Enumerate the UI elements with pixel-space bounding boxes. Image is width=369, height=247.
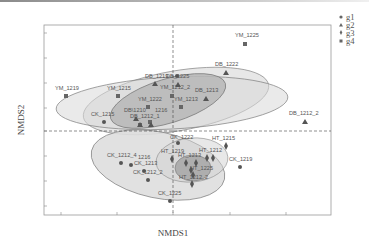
- point-label: CK_1213: [134, 160, 157, 166]
- point-label: CK_1225: [158, 190, 181, 196]
- circle-marker: [119, 161, 123, 165]
- point-label: CK_1219: [229, 156, 252, 162]
- point-label: YM_1222: [138, 96, 162, 102]
- point-label: DB_1212_1: [130, 113, 160, 119]
- point-label: YM_1219: [55, 85, 79, 91]
- point-label: DB_1213: [195, 87, 218, 93]
- point-label: YM_1215: [107, 85, 131, 91]
- point-label: HT_1212_2: [179, 174, 208, 180]
- circle-marker: [102, 120, 106, 124]
- point-label: CK_1212_4: [107, 152, 137, 158]
- point-label: DB_1212_2: [289, 110, 319, 116]
- point-label: DB_1225: [166, 73, 189, 79]
- point-label: YM_1213: [174, 96, 198, 102]
- x-axis-title: NMDS1: [158, 228, 189, 238]
- legend: g1 g2 g3 g4: [339, 12, 355, 46]
- point-label: CK_1212_2: [133, 169, 163, 175]
- circle-marker: [168, 199, 172, 203]
- point-label: YM_1225: [235, 32, 259, 38]
- point-label: CK_1215: [91, 111, 114, 117]
- legend-diamond-icon: [340, 30, 343, 35]
- point-label: HT_1212: [199, 147, 222, 153]
- point-label: CK_1222: [170, 134, 193, 140]
- circle-marker: [176, 141, 180, 145]
- circle-marker: [146, 178, 150, 182]
- point-label: HT_1215: [212, 135, 235, 141]
- point-label: HT_1225: [190, 165, 213, 171]
- circle-marker: [129, 163, 133, 167]
- nmds-chart: YM_1225 DB_1222 DB_1212_2 YM_1219 YM_121…: [0, 0, 369, 247]
- point-label: YM_1212_2: [160, 84, 190, 90]
- square-marker: [64, 94, 68, 98]
- legend-square-icon: [340, 40, 343, 43]
- y-axis-title: NMDS2: [16, 105, 26, 136]
- square-marker: [146, 105, 150, 109]
- square-marker: [243, 42, 247, 46]
- legend-label-g4: g4: [346, 36, 355, 46]
- square-marker: [179, 105, 183, 109]
- legend-circle-icon: [339, 15, 342, 18]
- point-label: HT_1213: [178, 152, 201, 158]
- square-marker: [116, 94, 120, 98]
- circle-marker: [238, 165, 242, 169]
- point-label: DB_1219: [145, 73, 168, 79]
- point-label: DB_1222: [215, 61, 238, 67]
- legend-triangle-icon: [339, 23, 343, 27]
